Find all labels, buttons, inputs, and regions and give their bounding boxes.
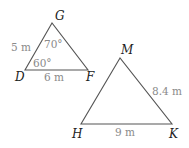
triangle-hmk: M H K 8.4 m 9 m [71,43,182,141]
triangle-dgf: G D F 5 m 6 m 70° 60° [11,9,95,84]
vertex-label-h: H [71,127,83,141]
side-label-df: 6 m [44,71,64,83]
vertex-label-g: G [55,9,65,23]
angle-label-d: 60° [33,57,52,69]
side-label-dg: 5 m [11,41,31,53]
side-label-hk: 9 m [115,126,135,138]
vertex-label-m: M [120,43,134,57]
vertex-label-k: K [168,127,179,141]
angle-label-g: 70° [44,38,63,50]
vertex-label-f: F [85,70,95,84]
vertex-label-d: D [14,70,25,84]
side-label-mk: 8.4 m [152,85,182,97]
triangles-diagram: G D F 5 m 6 m 70° 60° M H K 8.4 m 9 m [0,0,189,148]
